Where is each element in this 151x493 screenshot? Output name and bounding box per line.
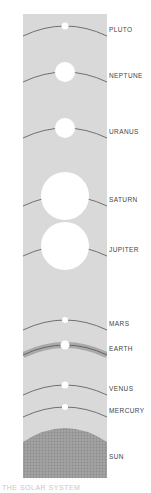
planet-neptune [55,62,75,82]
sun-icon [23,428,107,478]
planet-saturn [41,172,89,220]
planet-pluto [62,23,69,30]
label-mars: MARS [109,321,129,328]
label-neptune: NEPTUNE [109,73,143,80]
planet-mercury [62,404,68,410]
label-sun: SUN [109,454,124,461]
orbit-arcs [23,26,107,417]
planet-uranus [55,118,75,138]
planet-bodies [41,23,89,411]
planet-mars [62,317,68,323]
label-mercury: MERCURY [109,408,145,415]
label-jupiter: JUPITER [109,247,139,254]
label-venus: VENUS [109,386,133,393]
label-pluto: PLUTO [109,27,133,34]
planet-jupiter [41,222,89,270]
solar-system-panel [23,14,107,478]
label-earth: EARTH [109,346,133,353]
label-saturn: SATURN [109,197,138,204]
planet-venus [62,382,69,389]
figure-caption: THE SOLAR SYSTEM [2,484,142,492]
planet-earth [61,341,70,350]
orbits-graphic [23,14,107,478]
label-uranus: URANUS [109,129,139,136]
